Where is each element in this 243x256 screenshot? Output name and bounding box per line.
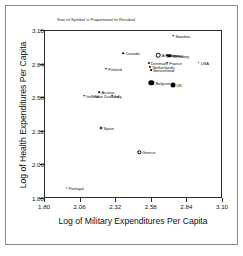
chart-annotation-title: Size of Symbol is Proportional to Residu… (57, 17, 135, 23)
y-tick-label: 3.10 (32, 27, 44, 34)
scatter-point[interactable] (150, 69, 152, 71)
scatter-point[interactable] (84, 95, 86, 97)
x-tick-label: 3.10 (216, 203, 228, 210)
scatter-point-label: Germany (172, 53, 189, 58)
scatter-point-label: Belgium (155, 80, 170, 85)
y-tick-label: 2.32 (32, 127, 44, 134)
scatter-point[interactable] (106, 68, 108, 70)
y-tick-label: 2.06 (32, 161, 44, 168)
x-tick-label: 2.58 (145, 203, 157, 210)
scatter-point[interactable] (99, 127, 102, 130)
scatter-point-label: Switzerland (153, 68, 174, 73)
chart-page: Size of Symbol is Proportional to Residu… (0, 0, 243, 256)
x-axis-title: Log of Military Expenditures Per Capita (44, 216, 222, 226)
scatter-point[interactable] (123, 52, 125, 54)
y-axis-title: Log of Health Expenditures Per Capita (18, 30, 28, 200)
scatter-point[interactable] (66, 187, 68, 189)
scatter-point[interactable] (112, 95, 114, 97)
scatter-point[interactable] (198, 62, 200, 64)
scatter-point[interactable] (173, 35, 175, 37)
x-tick-label: 2.32 (109, 203, 121, 210)
scatter-point-label: Spain (104, 126, 114, 131)
scatter-point[interactable] (170, 82, 175, 87)
scatter-point[interactable] (92, 95, 94, 97)
scatter-point-label: Finland (108, 66, 121, 71)
x-tick-mark (222, 198, 223, 202)
scatter-point-label: Italy (114, 93, 122, 98)
scatter-point-label: USA (201, 60, 209, 65)
x-tick-mark (80, 198, 81, 202)
scatter-point-label: Portugal (69, 185, 84, 190)
y-tick-label: 1.80 (32, 195, 44, 202)
x-tick-mark (151, 198, 152, 202)
scatter-point-label: Canada (125, 51, 139, 56)
scatter-point-label: Greece (142, 150, 155, 155)
x-tick-mark (44, 198, 45, 202)
scatter-point-label: UK (176, 82, 182, 87)
x-tick-label: 1.80 (38, 203, 50, 210)
y-tick-label: 2.84 (32, 60, 44, 67)
x-tick-label: 2.06 (74, 203, 86, 210)
x-tick-mark (186, 198, 187, 202)
x-tick-mark (115, 198, 116, 202)
scatter-point-label: Sweden (175, 33, 190, 38)
x-tick-label: 2.84 (180, 203, 192, 210)
y-tick-label: 2.58 (32, 94, 44, 101)
scatter-point[interactable] (156, 53, 161, 58)
